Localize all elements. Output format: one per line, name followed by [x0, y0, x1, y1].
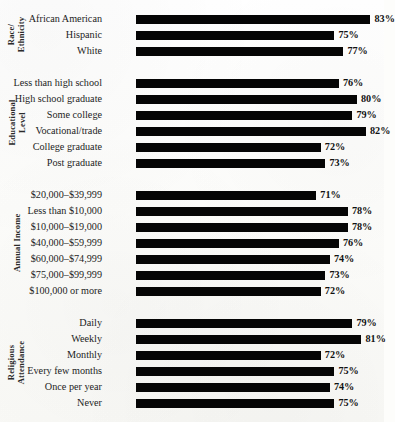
bar-track: 72% — [136, 347, 384, 363]
chart-bar — [136, 191, 316, 200]
category-label: Vocational/trade — [35, 123, 102, 139]
bar-value-label: 74% — [330, 379, 354, 395]
chart-bar — [136, 255, 330, 264]
chart-bar — [136, 127, 366, 136]
bar-value-label: 75% — [334, 363, 358, 379]
chart-bar — [136, 159, 325, 168]
chart-bar — [136, 271, 325, 280]
category-label: Every few months — [27, 363, 102, 379]
bar-track: 71% — [136, 187, 384, 203]
chart-bar-row: High school graduate80% — [34, 91, 384, 107]
chart-bar — [136, 287, 321, 296]
bar-value-label: 76% — [339, 235, 363, 251]
group-rows: Less than high school76%High school grad… — [34, 75, 384, 171]
bar-value-label: 72% — [321, 139, 345, 155]
chart-bar-row: College graduate72% — [34, 139, 384, 155]
category-label: African American — [29, 11, 102, 27]
bar-value-label: 75% — [334, 27, 358, 43]
bar-track: 73% — [136, 267, 384, 283]
bar-track: 75% — [136, 363, 384, 379]
chart-bar-row: Monthly72% — [34, 347, 384, 363]
chart-bar — [136, 367, 334, 376]
bar-track: 72% — [136, 139, 384, 155]
group-rows: $20,000–$39,99971%Less than $10,00078%$1… — [34, 187, 384, 299]
chart-bar — [136, 95, 357, 104]
category-label: Weekly — [71, 331, 102, 347]
chart-bar-row: Hispanic75% — [34, 27, 384, 43]
bar-track: 78% — [136, 203, 384, 219]
chart-bar — [136, 383, 330, 392]
category-label: White — [77, 43, 102, 59]
group-rows: Daily79%Weekly81%Monthly72%Every few mon… — [34, 315, 384, 411]
chart-bar-row: Never75% — [34, 395, 384, 411]
category-label: Hispanic — [66, 27, 102, 43]
bar-value-label: 82% — [366, 123, 390, 139]
chart-bar-row: $75,000–$99,99973% — [34, 267, 384, 283]
bar-value-label: 79% — [352, 315, 376, 331]
category-label: Less than high school — [13, 75, 102, 91]
bar-track: 74% — [136, 251, 384, 267]
chart-bar-row: Every few months75% — [34, 363, 384, 379]
bar-value-label: 75% — [334, 395, 358, 411]
bar-track: 72% — [136, 283, 384, 299]
bar-track: 77% — [136, 43, 384, 59]
bar-track: 79% — [136, 315, 384, 331]
category-label: Monthly — [67, 347, 102, 363]
chart-group: Annual Income$20,000–$39,99971%Less than… — [0, 187, 384, 299]
group-axis-label-text: ReligiousAttendance — [7, 341, 26, 385]
chart-bar-row: $10,000–$19,00078% — [34, 219, 384, 235]
bar-value-label: 78% — [348, 219, 372, 235]
bar-track: 83% — [136, 11, 384, 27]
bar-track: 76% — [136, 75, 384, 91]
bar-value-label: 83% — [370, 11, 394, 27]
category-label: Daily — [79, 315, 102, 331]
category-label: Post graduate — [47, 155, 102, 171]
chart-bar-row: $100,000 or more72% — [34, 283, 384, 299]
bar-value-label: 73% — [325, 267, 349, 283]
chart-bar — [136, 319, 352, 328]
chart-bar — [136, 399, 334, 408]
bar-track: 75% — [136, 395, 384, 411]
chart-bar — [136, 47, 343, 56]
bar-track: 73% — [136, 155, 384, 171]
bar-track: 78% — [136, 219, 384, 235]
category-label: $100,000 or more — [29, 283, 102, 299]
bar-track: 76% — [136, 235, 384, 251]
chart-bar-row: Some college79% — [34, 107, 384, 123]
chart-bar — [136, 79, 339, 88]
bar-value-label: 71% — [316, 187, 340, 203]
bar-track: 82% — [136, 123, 384, 139]
chart-group: ReligiousAttendanceDaily79%Weekly81%Mont… — [0, 315, 384, 411]
chart-bar-row: White77% — [34, 43, 384, 59]
bar-value-label: 77% — [343, 43, 367, 59]
group-axis-label-text: Race/Ethnicity — [7, 17, 26, 52]
bar-value-label: 73% — [325, 155, 349, 171]
bar-track: 79% — [136, 107, 384, 123]
chart-bar — [136, 15, 370, 24]
chart-bar — [136, 111, 352, 120]
category-label: $20,000–$39,999 — [31, 187, 102, 203]
bar-value-label: 74% — [330, 251, 354, 267]
bar-value-label: 76% — [339, 75, 363, 91]
chart-bar-row: $60,000–$74,99974% — [34, 251, 384, 267]
chart-bar — [136, 143, 321, 152]
bar-track: 80% — [136, 91, 384, 107]
bar-track: 74% — [136, 379, 384, 395]
category-label: Once per year — [45, 379, 102, 395]
chart-bar-row: Weekly81% — [34, 331, 384, 347]
bar-track: 81% — [136, 331, 384, 347]
category-label: College graduate — [33, 139, 102, 155]
bar-value-label: 78% — [348, 203, 372, 219]
bar-value-label: 81% — [361, 331, 385, 347]
chart-bar — [136, 335, 361, 344]
category-label: $10,000–$19,000 — [31, 219, 102, 235]
chart-bar-row: Less than $10,00078% — [34, 203, 384, 219]
chart-bar — [136, 351, 321, 360]
group-axis-label-text: Annual Income — [12, 214, 22, 273]
bar-value-label: 79% — [352, 107, 376, 123]
category-label: Some college — [47, 107, 102, 123]
chart-bar-row: Vocational/trade82% — [34, 123, 384, 139]
bar-value-label: 80% — [357, 91, 381, 107]
group-rows: African American83%Hispanic75%White77% — [34, 11, 384, 59]
chart-group: EducationalLevelLess than high school76%… — [0, 75, 384, 171]
